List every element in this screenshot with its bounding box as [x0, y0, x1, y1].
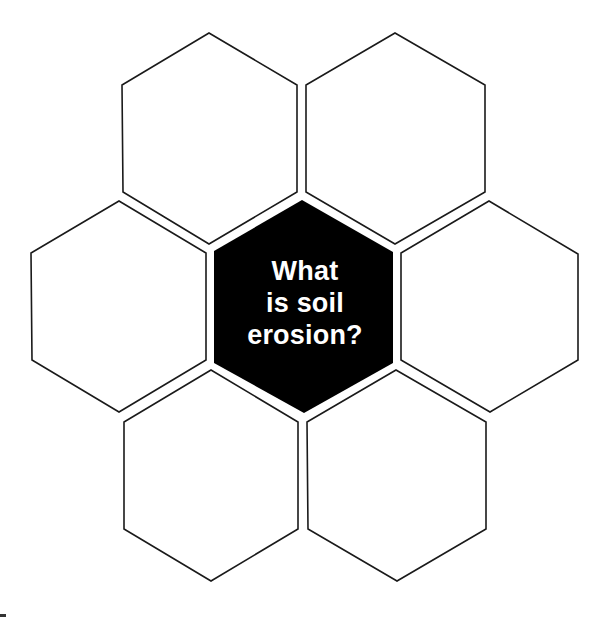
hex-cell-bottom-right[interactable]: [307, 370, 486, 581]
hex-cell-top-left[interactable]: [122, 33, 297, 244]
hex-cell-bottom-left[interactable]: [124, 370, 298, 581]
hex-cell-left[interactable]: [31, 201, 206, 412]
hex-cell-top-right[interactable]: [306, 33, 485, 244]
hex-cell-right[interactable]: [401, 201, 578, 412]
center-question-line-2: is soil: [266, 288, 344, 318]
hexagon-diagram: What is soil erosion?: [0, 0, 605, 617]
center-question-line-1: What: [272, 256, 339, 286]
center-question-line-3: erosion?: [247, 320, 363, 350]
